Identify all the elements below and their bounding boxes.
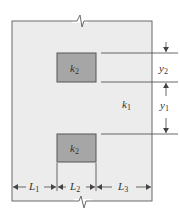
svg-text:y2: y2 [158,62,168,76]
outer-region [12,21,152,201]
dimension-y1: y1 [159,83,169,133]
dimension-y2: y2 [158,42,168,76]
svg-text:y1: y1 [159,99,169,113]
two-dimensional-conduction-diagram: k2 k2 k1 y2 y1 L1 L2 L3 [0,0,180,223]
